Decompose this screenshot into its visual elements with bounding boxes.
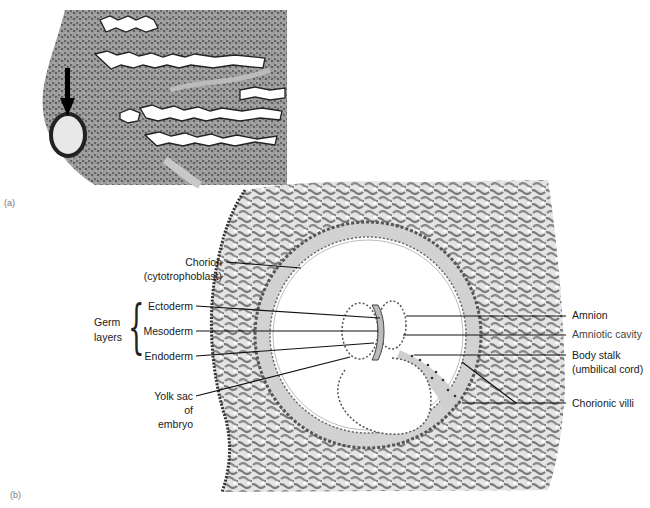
label-chorionic-villi: Chorionic villi xyxy=(572,397,634,410)
label-chorion: Chorion xyxy=(150,256,222,269)
label-germ-layers-1: Germ xyxy=(94,316,120,329)
label-yolk-of: of xyxy=(120,404,193,417)
label-amnion: Amnion xyxy=(572,309,608,322)
label-amniotic-cavity: Amniotic cavity xyxy=(572,328,642,341)
label-endoderm: Endoderm xyxy=(120,350,193,363)
label-germ-layers-2: layers xyxy=(94,331,122,344)
panel-label-b: (b) xyxy=(10,490,21,500)
label-yolk-embryo: embryo xyxy=(120,418,193,431)
label-ectoderm: Ectoderm xyxy=(120,300,193,313)
label-cytotrophoblast: (cytotrophoblast) xyxy=(112,270,222,283)
label-mesoderm: Mesoderm xyxy=(120,325,193,338)
label-body-stalk: Body stalk xyxy=(572,349,620,362)
embryo-diagram xyxy=(0,0,650,508)
label-yolk-sac: Yolk sac xyxy=(120,390,193,403)
label-umbilical-cord: (umbilical cord) xyxy=(572,363,643,376)
